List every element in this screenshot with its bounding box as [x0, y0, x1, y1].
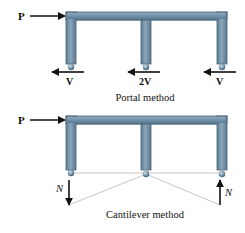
portal-reaction-label-middle: 2V [139, 76, 152, 87]
cantilever-diagonal-right [146, 174, 220, 205]
cantilever-diagonal-left [69, 174, 146, 205]
cantilever-right-force-label: N [224, 187, 233, 198]
portal-roller-middle [143, 64, 149, 70]
cantilever-left-force-label: N [55, 183, 64, 194]
portal-column-middle [141, 20, 151, 64]
portal-roller-left [68, 64, 74, 70]
portal-column-left [66, 12, 76, 64]
cantilever-column-middle [141, 124, 151, 170]
cantilever-caption: Cantilever method [106, 209, 185, 220]
portal-reaction-label-right: V [216, 76, 224, 87]
cantilever-column-right [217, 116, 227, 170]
portal-roller-right [219, 64, 225, 70]
portal-load-label: P [18, 10, 25, 22]
portal-column-right [217, 12, 227, 64]
portal-caption: Portal method [115, 92, 175, 103]
cantilever-column-left [66, 116, 76, 170]
figure-canvas: P V 2V V Portal method P N N [0, 0, 245, 233]
cantilever-roller-middle [143, 171, 149, 177]
cantilever-roller-right [219, 171, 225, 177]
cantilever-roller-left [68, 170, 74, 176]
cantilever-frame-diagram: P N N Cantilever method [18, 114, 233, 220]
portal-frame-diagram: P V 2V V Portal method [18, 10, 236, 103]
portal-reaction-label-left: V [66, 76, 74, 87]
cantilever-load-label: P [18, 114, 25, 126]
